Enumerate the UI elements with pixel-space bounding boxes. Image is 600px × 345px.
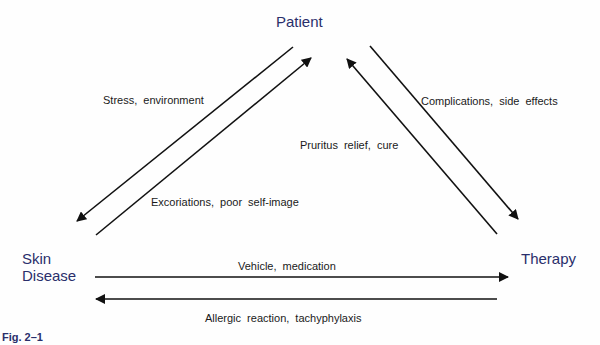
node-skin-disease-line2: Disease [22, 267, 76, 285]
arrows-layer [0, 0, 600, 345]
node-therapy: Therapy [521, 250, 576, 268]
label-excoriations: Excoriations, poor self-image [151, 196, 299, 208]
label-stress-environment: Stress, environment [103, 94, 204, 106]
label-allergic-reaction: Allergic reaction, tachyphylaxis [205, 312, 361, 324]
arrow-patient-to-skin [77, 47, 293, 221]
arrow-patient-to-therapy [370, 46, 518, 219]
label-pruritus-relief: Pruritus relief, cure [300, 139, 398, 151]
label-complications: Complications, side effects [421, 95, 558, 107]
figure-canvas: Patient Skin Disease Therapy Stress, env… [0, 0, 600, 345]
label-vehicle-medication: Vehicle, medication [238, 260, 336, 272]
node-skin-disease-line1: Skin [22, 250, 51, 268]
arrow-skin-to-patient [96, 58, 311, 235]
figure-caption: Fig. 2–1 [2, 331, 43, 343]
node-patient: Patient [276, 13, 323, 31]
